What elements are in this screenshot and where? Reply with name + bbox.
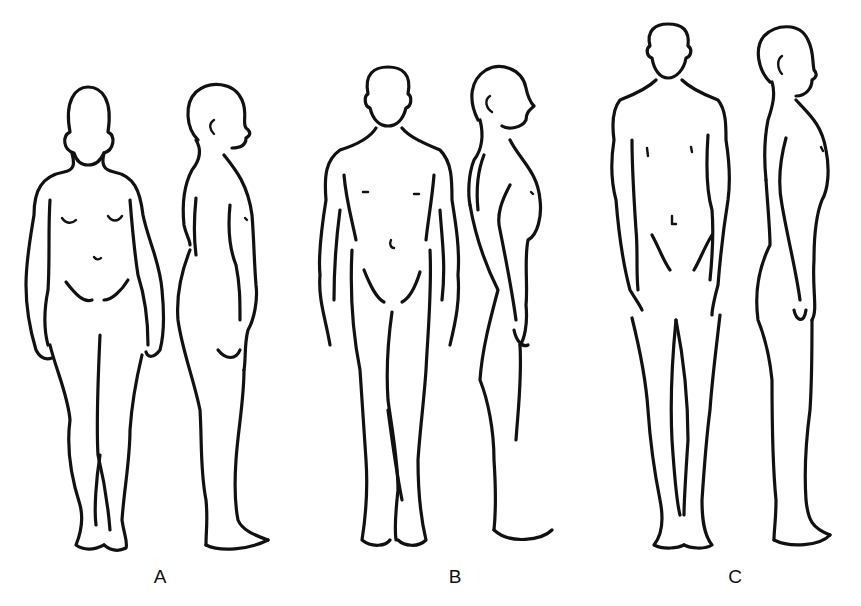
figure-a-front	[26, 87, 163, 550]
label-a: A	[154, 566, 167, 588]
figure-c-front	[612, 24, 729, 548]
label-c: C	[728, 566, 742, 588]
label-b: B	[449, 566, 462, 588]
figure-b-side	[469, 67, 552, 540]
figure-c-side	[757, 27, 830, 545]
figure-a-side	[178, 84, 268, 549]
figure-b-front	[319, 67, 458, 545]
somatotype-figure: A B C	[0, 0, 861, 606]
